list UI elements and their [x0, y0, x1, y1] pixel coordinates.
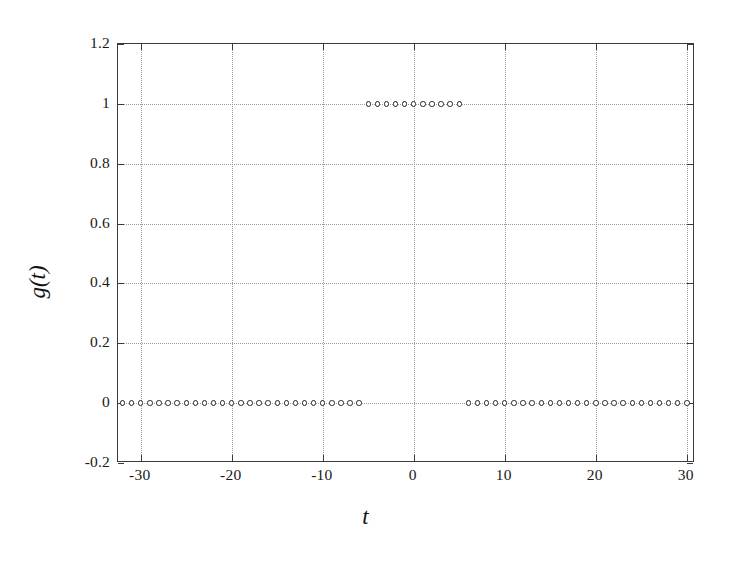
data-point-marker: [420, 101, 425, 106]
x-tick-mark: [414, 455, 415, 461]
data-point-marker: [548, 400, 553, 405]
data-point-marker: [265, 400, 270, 405]
data-point-marker: [220, 400, 225, 405]
data-point-marker: [438, 101, 443, 106]
x-tick-label: -10: [311, 466, 332, 484]
y-tick-mark: [118, 343, 124, 344]
data-point-marker: [557, 400, 562, 405]
data-point-marker: [329, 400, 334, 405]
y-tick-mark: [118, 224, 124, 225]
x-tick-mark-top: [323, 44, 324, 50]
x-axis-title-text: t: [362, 504, 368, 529]
y-axis-title-text: g(t): [25, 265, 51, 298]
gridline-vertical: [323, 44, 324, 461]
data-point-marker: [630, 400, 635, 405]
data-point-marker: [202, 400, 207, 405]
x-tick-mark: [141, 455, 142, 461]
gridline-vertical: [687, 44, 688, 461]
data-point-marker: [466, 400, 471, 405]
data-point-marker: [284, 400, 289, 405]
data-point-marker: [238, 400, 243, 405]
data-point-marker: [156, 400, 161, 405]
data-point-marker: [457, 101, 462, 106]
x-axis-title: t: [0, 504, 731, 530]
data-point-marker: [384, 101, 389, 106]
y-tick-label: 0.8: [90, 154, 110, 172]
data-point-marker: [174, 400, 179, 405]
data-point-marker: [338, 400, 343, 405]
y-axis-title: g(t): [18, 0, 58, 564]
data-point-marker: [302, 400, 307, 405]
data-point-marker: [484, 400, 489, 405]
data-point-marker: [138, 400, 143, 405]
data-point-marker: [566, 400, 571, 405]
data-point-marker: [247, 400, 252, 405]
data-point-marker: [593, 400, 598, 405]
x-tick-mark-top: [505, 44, 506, 50]
y-tick-label: 0.6: [90, 214, 110, 232]
gridline-vertical: [596, 44, 597, 461]
x-tick-mark-top: [414, 44, 415, 50]
y-tick-mark: [118, 164, 124, 165]
y-tick-label: 0.4: [90, 273, 110, 291]
plot-area: [117, 43, 694, 462]
data-point-marker: [320, 400, 325, 405]
data-point-marker: [639, 400, 644, 405]
y-tick-label: 0: [102, 393, 110, 411]
data-point-marker: [147, 400, 152, 405]
data-point-marker: [120, 400, 125, 405]
y-tick-mark-right: [687, 343, 693, 344]
data-point-marker: [493, 400, 498, 405]
data-point-marker: [356, 400, 361, 405]
gridline-vertical: [414, 44, 415, 461]
data-point-marker: [193, 400, 198, 405]
data-point-marker: [366, 101, 371, 106]
y-tick-mark-right: [687, 164, 693, 165]
gridline-horizontal: [118, 283, 693, 284]
data-point-marker: [229, 400, 234, 405]
data-point-marker: [293, 400, 298, 405]
x-tick-mark-top: [232, 44, 233, 50]
data-point-marker: [256, 400, 261, 405]
x-tick-mark: [232, 455, 233, 461]
data-point-marker: [447, 101, 452, 106]
data-point-marker: [393, 101, 398, 106]
x-tick-mark: [323, 455, 324, 461]
x-tick-label: 10: [496, 466, 512, 484]
gridline-horizontal: [118, 343, 693, 344]
data-point-marker: [502, 400, 507, 405]
data-point-marker: [211, 400, 216, 405]
data-point-marker: [529, 400, 534, 405]
data-point-marker: [539, 400, 544, 405]
data-point-marker: [602, 400, 607, 405]
data-point-marker: [411, 101, 416, 106]
data-point-marker: [402, 101, 407, 106]
y-tick-mark-right: [687, 224, 693, 225]
x-tick-mark: [596, 455, 597, 461]
y-tick-mark: [118, 104, 124, 105]
y-tick-label: 1.2: [90, 34, 110, 52]
data-point-marker: [429, 101, 434, 106]
y-tick-mark: [118, 44, 124, 45]
data-point-marker: [648, 400, 653, 405]
y-tick-label: 1: [102, 94, 110, 112]
data-point-marker: [165, 400, 170, 405]
data-point-marker: [684, 400, 689, 405]
x-tick-label: 20: [587, 466, 603, 484]
gridline-vertical: [505, 44, 506, 461]
y-tick-mark-right: [687, 463, 693, 464]
data-point-marker: [275, 400, 280, 405]
data-point-marker: [347, 400, 352, 405]
x-tick-label: -20: [220, 466, 241, 484]
data-point-marker: [620, 400, 625, 405]
data-point-marker: [511, 400, 516, 405]
data-point-marker: [584, 400, 589, 405]
data-point-marker: [657, 400, 662, 405]
data-point-marker: [611, 400, 616, 405]
y-tick-mark: [118, 283, 124, 284]
gridline-vertical: [141, 44, 142, 461]
x-tick-mark: [505, 455, 506, 461]
x-tick-label: 30: [678, 466, 694, 484]
y-tick-label: 0.2: [90, 333, 110, 351]
data-point-marker: [375, 101, 380, 106]
